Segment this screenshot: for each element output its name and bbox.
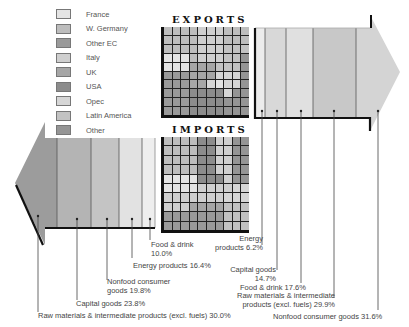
imports-nonfood-label: Nonfood consumergoods 19.8% [107,277,170,295]
exports-energy-label: Energyproducts 6.2% [215,234,263,252]
imports-arrow [15,122,155,245]
exports-raw-label: Raw materials & intermediateproducts (ex… [237,291,335,309]
exports-leaders [262,111,378,310]
imports-capital-label: Capital goods 23.8% [76,299,145,308]
exports-capital-label: Capital goods14.7% [230,265,276,283]
imports-food-label: Food & drink10.0% [151,240,194,258]
exports-nonfood-label: Nonfood consumer goods 31.6% [273,312,382,321]
imports-raw-label: Raw materials & intermediate products (e… [38,311,231,320]
arrows [0,0,409,327]
imports-energy-label: Energy products 16.4% [133,261,211,270]
